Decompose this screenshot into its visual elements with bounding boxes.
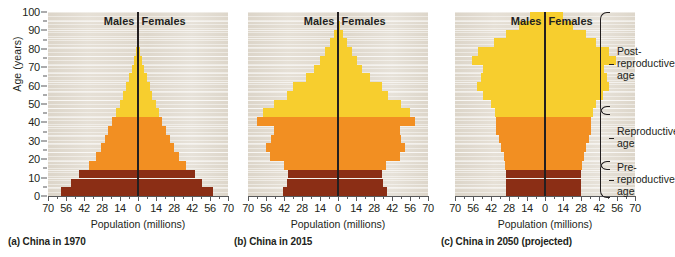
bar-male: [491, 100, 545, 109]
x-tick-label: 70: [242, 202, 254, 214]
bar-male: [126, 82, 138, 91]
age-group-brackets: Post-reproductiveageReproductiveagePre-r…: [600, 12, 675, 196]
center-axis-line: [337, 12, 338, 196]
bar-female: [545, 117, 591, 126]
x-minor-tick-mark: [419, 196, 420, 199]
center-axis-line: [544, 12, 545, 196]
x-tick-label: 28: [296, 202, 308, 214]
x-minor-tick-mark: [147, 196, 148, 199]
caption-2015: (b) China in 2015: [234, 236, 312, 247]
bar-female: [138, 161, 186, 170]
y-minor-tick-mark: [43, 39, 47, 40]
caption-2050: (c) China in 2050 (projected): [441, 236, 572, 247]
bar-male: [505, 161, 545, 170]
bar-male: [61, 187, 138, 196]
bar-male: [123, 91, 138, 100]
bar-female: [138, 179, 202, 188]
x-minor-tick-mark: [129, 196, 130, 199]
bar-female: [138, 117, 162, 126]
bar-male: [120, 100, 138, 109]
x-tick-label: 28: [575, 202, 587, 214]
bar-female: [545, 73, 607, 82]
bar-male: [496, 117, 545, 126]
x-minor-tick-mark: [590, 196, 591, 199]
bar-male: [314, 65, 338, 74]
x-tick-mark: [266, 196, 267, 201]
bar-male: [79, 170, 138, 179]
bracket-pre-reproductive: [600, 161, 610, 198]
y-tick-label: 40: [6, 116, 40, 128]
x-tick-label: 56: [404, 202, 416, 214]
bar-female: [138, 143, 174, 152]
x-axis-title-1970: Population (millions): [48, 218, 228, 230]
x-tick-mark: [455, 196, 456, 201]
bar-male: [483, 91, 545, 100]
y-minor-tick-mark: [43, 186, 47, 187]
bar-male: [274, 126, 338, 135]
x-tick-label: 56: [60, 202, 72, 214]
y-tick-label: 100: [6, 6, 40, 18]
bar-female: [138, 187, 213, 196]
x-minor-tick-mark: [219, 196, 220, 199]
x-tick-mark: [356, 196, 357, 201]
x-tick-mark: [581, 196, 582, 201]
bar-female: [138, 100, 156, 109]
x-minor-tick-mark: [464, 196, 465, 199]
bar-female: [338, 100, 401, 109]
bar-male: [105, 135, 138, 144]
x-tick-mark: [527, 196, 528, 201]
bar-female: [338, 161, 386, 170]
bar-male: [263, 108, 338, 117]
bracket-label-post-reproductive: Post-reproductiveage: [617, 45, 675, 81]
x-tick-label: 14: [557, 202, 569, 214]
bar-female: [545, 65, 604, 74]
bar-female: [545, 170, 581, 179]
x-minor-tick-mark: [183, 196, 184, 199]
males-label: Males: [104, 15, 135, 27]
x-minor-tick-mark: [75, 196, 76, 199]
bar-female: [545, 126, 591, 135]
bar-female: [138, 91, 152, 100]
y-tick-label: 30: [6, 135, 40, 147]
y-tick-mark: [41, 85, 47, 86]
x-minor-tick-mark: [383, 196, 384, 199]
x-tick-mark: [192, 196, 193, 201]
bar-female: [138, 82, 150, 91]
x-tick-mark: [302, 196, 303, 201]
y-tick-mark: [41, 48, 47, 49]
bracket-label-line: reproductive: [617, 57, 675, 69]
bar-male: [481, 73, 545, 82]
x-minor-tick-mark: [518, 196, 519, 199]
panel-china-2015: Males Females 705642281401428425670 Popu…: [228, 0, 443, 257]
bar-female: [338, 56, 357, 65]
bracket-label-line: Reproductive: [617, 125, 675, 137]
bar-female: [138, 170, 195, 179]
x-tick-mark: [210, 196, 211, 201]
x-minor-tick-mark: [257, 196, 258, 199]
bar-female: [545, 30, 586, 39]
x-tick-mark: [48, 196, 49, 201]
bar-male: [472, 56, 545, 65]
bar-male: [477, 82, 545, 91]
x-axis-title-2050: Population (millions): [455, 218, 635, 230]
bar-female: [545, 108, 593, 117]
y-tick-mark: [41, 30, 47, 31]
x-tick-label: 56: [204, 202, 216, 214]
x-tick-mark: [410, 196, 411, 201]
males-label: Males: [304, 15, 335, 27]
x-tick-label: 14: [114, 202, 126, 214]
y-minor-tick-mark: [43, 113, 47, 114]
bar-female: [138, 108, 159, 117]
bar-male: [288, 170, 338, 179]
x-tick-label: 0: [542, 202, 548, 214]
x-tick-mark: [599, 196, 600, 201]
x-tick-mark: [428, 196, 429, 201]
x-tick-label: 70: [629, 202, 641, 214]
bar-female: [338, 91, 388, 100]
x-tick-mark: [174, 196, 175, 201]
bar-male: [495, 108, 545, 117]
x-tick-label: 28: [503, 202, 515, 214]
y-tick-mark: [41, 177, 47, 178]
bracket-label-line: Pre-: [617, 161, 675, 173]
y-tick-label: 0: [6, 190, 40, 202]
